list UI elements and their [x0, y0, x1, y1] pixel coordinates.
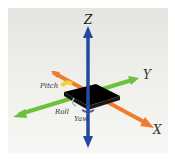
yaw-label: Yaw — [74, 115, 88, 123]
pitch-arc-icon — [62, 82, 72, 86]
roll-label: Roll — [54, 108, 69, 116]
axes-diagram: Z Y X Pitch Roll Yaw — [0, 0, 175, 165]
x-axis-label: X — [152, 123, 162, 137]
pitch-label: Pitch — [39, 82, 58, 90]
z-arrow-head-icon — [83, 26, 93, 38]
y-arrow-tail-icon — [13, 109, 27, 118]
z-arrow-tail-icon — [83, 136, 93, 148]
y-axis-label: Y — [143, 68, 152, 82]
z-axis-label: Z — [83, 13, 93, 27]
y-arrow-head-icon — [128, 76, 139, 85]
